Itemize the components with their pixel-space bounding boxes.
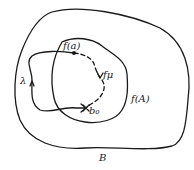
label-fmu: fμ bbox=[103, 70, 113, 80]
point-fa-dot bbox=[72, 51, 76, 55]
region-b-boundary bbox=[15, 9, 189, 149]
label-fa: f(a) bbox=[63, 41, 80, 51]
diagram-canvas bbox=[0, 0, 194, 170]
label-region-b: B bbox=[99, 153, 106, 163]
fmu-path bbox=[74, 53, 104, 108]
lambda-path bbox=[29, 51, 86, 111]
label-b0: b₀ bbox=[89, 106, 99, 116]
label-region-fa: f(A) bbox=[131, 94, 150, 104]
label-lambda: λ bbox=[20, 76, 26, 86]
